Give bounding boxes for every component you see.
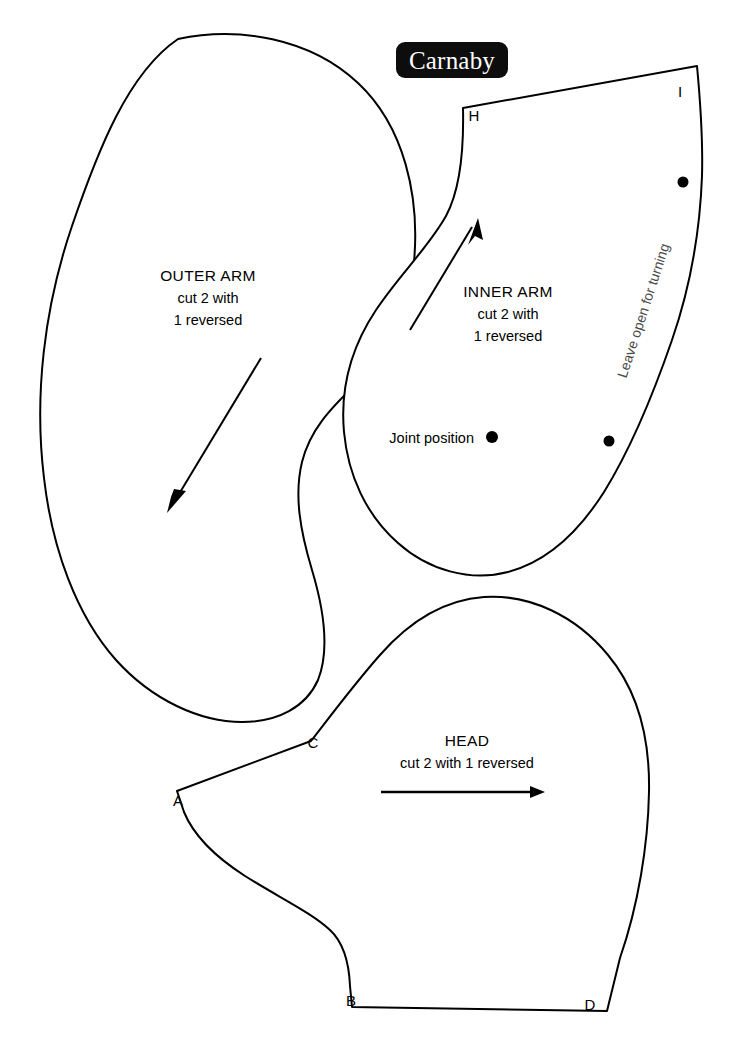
corner-label-h: H (469, 107, 480, 124)
brand-title: Carnaby (409, 48, 495, 73)
corner-label-d: D (585, 996, 596, 1013)
corner-label-a: A (173, 792, 183, 809)
outer-arm-title: OUTER ARM (160, 267, 256, 284)
corner-label-b: B (346, 992, 356, 1009)
outer-arm-line2: cut 2 with (177, 290, 238, 306)
inner-arm-title: INNER ARM (463, 283, 553, 300)
corner-label-c: C (308, 734, 319, 751)
joint-dot-upper-right (678, 177, 689, 188)
pattern-sheet: OUTER ARM cut 2 with 1 reversed INNER AR… (0, 0, 742, 1053)
joint-position-dot (486, 431, 498, 443)
brand-plate: Carnaby (396, 42, 508, 78)
joint-dot-lower-right (604, 436, 615, 447)
head-title: HEAD (445, 732, 490, 749)
pattern-canvas: OUTER ARM cut 2 with 1 reversed INNER AR… (0, 0, 742, 1053)
outer-arm-line3: 1 reversed (174, 312, 243, 328)
joint-position-label: Joint position (389, 430, 474, 446)
head-line2: cut 2 with 1 reversed (400, 755, 534, 771)
inner-arm-line2: cut 2 with (477, 306, 538, 322)
inner-arm-line3: 1 reversed (474, 328, 543, 344)
corner-label-i: I (678, 83, 682, 100)
